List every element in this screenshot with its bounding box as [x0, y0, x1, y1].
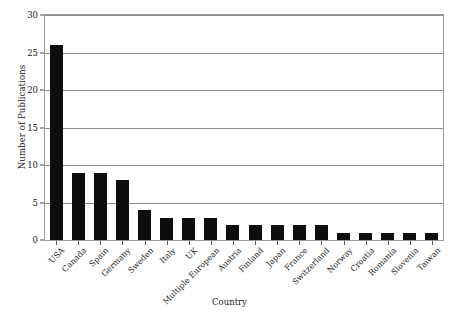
bar[interactable]: [204, 218, 217, 241]
bar[interactable]: [116, 180, 129, 240]
bar[interactable]: [226, 225, 239, 240]
x-label: UK: [184, 246, 199, 261]
bar-slot: [178, 15, 200, 240]
y-tick-label: 10: [0, 160, 38, 170]
x-tick-mark: [299, 241, 300, 245]
x-tick-mark: [167, 241, 168, 245]
bar[interactable]: [425, 233, 438, 241]
y-tick-mark: [40, 202, 44, 203]
x-label: USA: [47, 246, 66, 265]
bar[interactable]: [359, 233, 372, 241]
x-tick-mark: [277, 241, 278, 245]
bar-slot: [111, 15, 133, 240]
x-axis-title: Country: [0, 297, 459, 307]
y-axis-title: Number of Publications: [17, 37, 27, 197]
bar-slot: [266, 15, 288, 240]
x-tick-mark: [189, 241, 190, 245]
bar-slot: [399, 15, 421, 240]
bar[interactable]: [271, 225, 284, 240]
y-tick-mark: [40, 127, 44, 128]
bar-slot: [45, 15, 67, 240]
bar-slot: [421, 15, 443, 240]
y-tick-label: 15: [0, 123, 38, 133]
x-tick-mark: [321, 241, 322, 245]
bar-slot: [200, 15, 222, 240]
bar[interactable]: [94, 173, 107, 241]
bar[interactable]: [381, 233, 394, 241]
bars-layer: [45, 15, 443, 240]
y-tick-mark: [40, 240, 44, 241]
bar[interactable]: [138, 210, 151, 240]
x-tick-mark: [145, 241, 146, 245]
x-tick-label: Italy: [158, 246, 177, 265]
y-tick-label: 25: [0, 48, 38, 58]
bar-chart: Number of Publications 051015202530 USAC…: [0, 0, 459, 321]
bar-slot: [355, 15, 377, 240]
y-tick-mark: [40, 15, 44, 16]
bar-slot: [377, 15, 399, 240]
bar-slot: [332, 15, 354, 240]
x-tick-mark: [366, 241, 367, 245]
x-tick-mark: [255, 241, 256, 245]
x-tick-mark: [432, 241, 433, 245]
x-tick-mark: [78, 241, 79, 245]
y-tick-label: 0: [0, 235, 38, 245]
x-tick-mark: [100, 241, 101, 245]
bar[interactable]: [182, 218, 195, 241]
y-tick-label: 5: [0, 198, 38, 208]
y-tick-label: 20: [0, 85, 38, 95]
y-tick-label: 30: [0, 10, 38, 20]
bar-slot: [244, 15, 266, 240]
bar-slot: [310, 15, 332, 240]
bar[interactable]: [249, 225, 262, 240]
x-tick-mark: [233, 241, 234, 245]
bar[interactable]: [72, 173, 85, 241]
bar[interactable]: [160, 218, 173, 241]
x-tick-mark: [122, 241, 123, 245]
y-tick-mark: [40, 52, 44, 53]
bar-slot: [89, 15, 111, 240]
x-tick-mark: [56, 241, 57, 245]
x-tick-mark: [410, 241, 411, 245]
x-tick-label: UK: [184, 246, 199, 261]
y-tick-mark: [40, 165, 44, 166]
bar[interactable]: [315, 225, 328, 240]
bar[interactable]: [293, 225, 306, 240]
bar[interactable]: [50, 45, 63, 240]
bar-slot: [67, 15, 89, 240]
bar[interactable]: [403, 233, 416, 241]
x-tick-mark: [211, 241, 212, 245]
bar-slot: [222, 15, 244, 240]
bar-slot: [288, 15, 310, 240]
x-tick-mark: [344, 241, 345, 245]
x-tick-label: USA: [47, 246, 66, 265]
bar[interactable]: [337, 233, 350, 241]
bar-slot: [156, 15, 178, 240]
x-tick-mark: [388, 241, 389, 245]
bar-slot: [133, 15, 155, 240]
y-tick-mark: [40, 90, 44, 91]
x-label: Italy: [158, 246, 177, 265]
